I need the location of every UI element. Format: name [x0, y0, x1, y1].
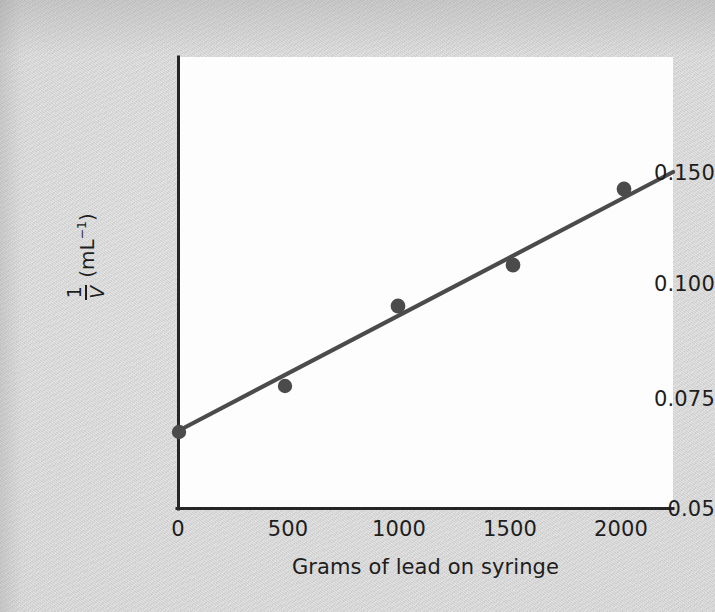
y-axis-unit-close: ) [74, 213, 98, 221]
x-tick-label-3: 1500 [469, 517, 551, 541]
y-axis-unit-exponent: −1 [74, 221, 89, 239]
y-tick-label-0: 0.150 [553, 161, 715, 185]
x-tick-label-4: 2000 [580, 517, 662, 541]
x-tick-label-1: 500 [252, 517, 324, 541]
data-point [391, 299, 406, 314]
fraction-numerator: 1 [65, 284, 85, 300]
y-tick-label-2: 0.075 [553, 387, 715, 411]
data-point [506, 258, 521, 273]
x-axis-title: Grams of lead on syringe [178, 555, 673, 579]
fraction-denominator: V [87, 284, 107, 301]
y-axis-title: 1 V (mL−1) [65, 197, 107, 317]
data-point [278, 379, 292, 393]
chart-figure: 0.150 0.100 0.075 0.05 0 500 1000 1500 2… [0, 0, 715, 612]
x-tick-label-0: 0 [158, 517, 198, 541]
reciprocal-volume-fraction: 1 V [65, 284, 107, 301]
y-tick-label-1: 0.100 [553, 272, 715, 296]
y-axis-unit-open: (mL [74, 239, 98, 277]
x-tick-label-2: 1000 [358, 517, 440, 541]
data-point [172, 425, 186, 439]
y-axis-unit: (mL−1) [74, 213, 99, 278]
